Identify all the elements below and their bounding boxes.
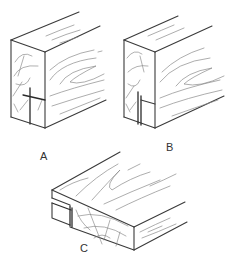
block-b [124,16,224,128]
panel-label-b: B [166,142,173,153]
block-b-end-face [124,40,155,128]
block-c [52,152,187,250]
panel-label-c: C [80,243,88,254]
woodworking-illustration [0,0,236,258]
panel-label-a: A [40,151,47,162]
block-a [11,12,106,128]
